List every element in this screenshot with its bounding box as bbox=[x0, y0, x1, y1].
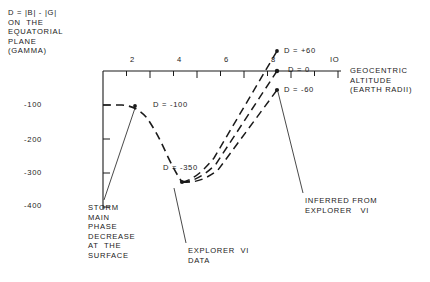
x-tick-label-2: 2 bbox=[130, 55, 135, 65]
callout-d-zero: D = 0 bbox=[288, 65, 310, 75]
leader-explorer-vi-data bbox=[174, 188, 186, 243]
x-tick-label-10: IO bbox=[330, 55, 339, 65]
point-d-minus-100 bbox=[133, 104, 137, 108]
callout-d-minus-350: D = -350 bbox=[163, 163, 198, 173]
annotation-storm-main-phase: STORM MAIN PHASE DECREASE AT THE SURFACE bbox=[88, 203, 135, 261]
point-d-plus-60 bbox=[275, 49, 279, 53]
callout-d-plus-60: D = +60 bbox=[284, 46, 316, 56]
chart-title: D = |B| - |G| ON THE EQUATORIAL PLANE (G… bbox=[8, 8, 63, 56]
x-tick-label-6: 6 bbox=[224, 55, 229, 65]
leader-inferred-from bbox=[278, 92, 303, 193]
chart-plot-area bbox=[0, 0, 430, 282]
callout-d-minus-100: D = -100 bbox=[153, 100, 188, 110]
x-tick-label-4: 4 bbox=[177, 55, 182, 65]
point-d-zero bbox=[275, 69, 279, 73]
annotation-explorer-vi-data: EXPLORER VI DATA bbox=[188, 246, 249, 265]
leader-storm-main-phase bbox=[104, 108, 135, 200]
figure-container: D = |B| - |G| ON THE EQUATORIAL PLANE (G… bbox=[0, 0, 430, 282]
x-axis-title: GEOCENTRIC ALTITUDE (EARTH RADII) bbox=[350, 66, 412, 95]
x-tick-label-8: 8 bbox=[271, 55, 276, 65]
point-d-minus-60 bbox=[275, 88, 279, 92]
callout-d-minus-60: D = -60 bbox=[284, 85, 314, 95]
point-d-minus-350 bbox=[180, 180, 184, 184]
y-tick-label-minus-300: -300 bbox=[24, 168, 42, 178]
annotation-inferred-from-explorer: INFERRED FROM EXPLORER VI bbox=[305, 196, 377, 215]
y-tick-label-minus-100: -100 bbox=[24, 100, 42, 110]
y-tick-label-minus-200: -200 bbox=[24, 135, 42, 145]
y-tick-label-minus-400: -400 bbox=[24, 201, 42, 211]
x-axis-minor-ticks bbox=[127, 71, 315, 76]
